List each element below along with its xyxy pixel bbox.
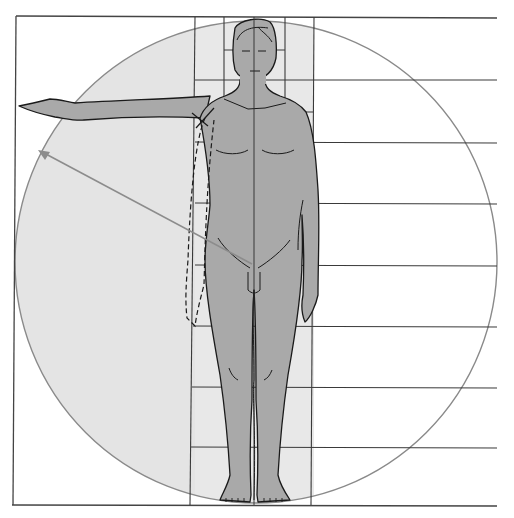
- proportion-diagram: [0, 0, 514, 518]
- neck: [240, 74, 266, 84]
